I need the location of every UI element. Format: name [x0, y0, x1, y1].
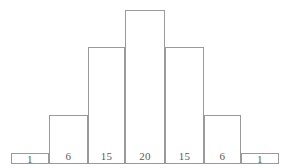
bar-value-label-7: 1 [241, 154, 279, 165]
bar-value-label-1: 1 [11, 154, 49, 165]
bar-value-label-3: 15 [88, 151, 125, 162]
histogram-bar-3 [88, 47, 125, 164]
bar-value-label-6: 6 [204, 151, 241, 162]
bar-value-label-5: 15 [165, 151, 204, 162]
histogram-bar-4 [125, 10, 165, 164]
histogram-bar-5 [165, 47, 204, 164]
bar-value-label-4: 20 [125, 151, 165, 162]
bar-value-label-2: 6 [49, 151, 88, 162]
histogram-chart: 1 6 15 20 15 6 1 [0, 0, 290, 168]
axis-baseline [11, 163, 279, 164]
